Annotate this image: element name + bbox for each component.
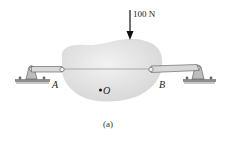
label-a: A	[51, 79, 59, 90]
label-b: B	[159, 79, 165, 90]
label-o: O	[103, 85, 110, 96]
rigid-body-diagram: 100 N A B O (a)	[0, 0, 228, 142]
point-o-dot	[99, 89, 102, 92]
right-link	[149, 65, 199, 73]
left-link	[32, 67, 65, 73]
figure-caption: (a)	[103, 119, 113, 129]
force-label: 100 N	[133, 9, 156, 19]
rigid-body	[62, 39, 162, 102]
